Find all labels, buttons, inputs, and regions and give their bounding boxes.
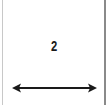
dimension-value-label: 2 [11,38,97,54]
left-border-line [2,0,3,105]
right-border-line [104,0,106,105]
dimension-cell: 2 [0,0,108,105]
double-headed-arrow-icon [12,82,97,94]
